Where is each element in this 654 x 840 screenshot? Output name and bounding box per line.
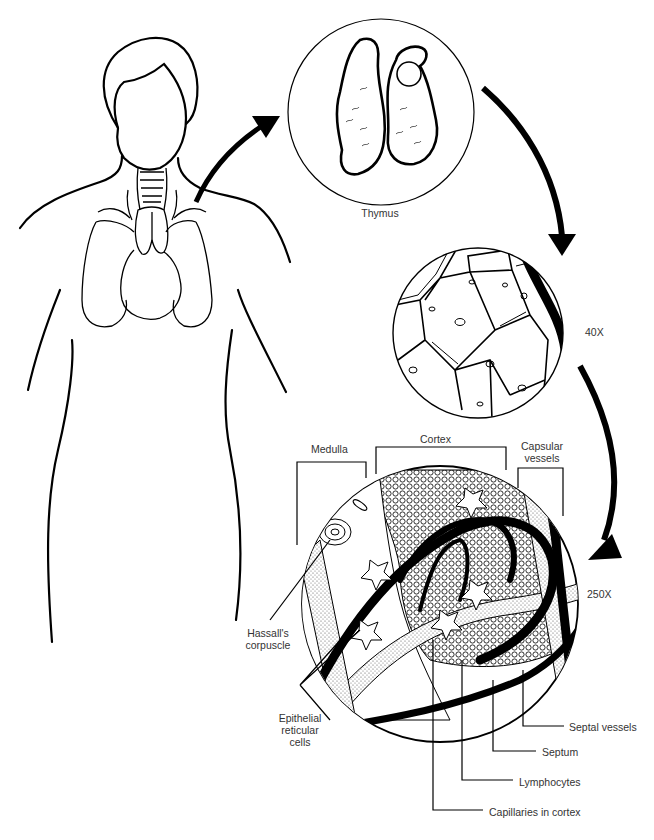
cortex-label: Cortex [420,433,451,445]
trachea-rings [140,172,164,202]
lymphocytes-label: Lymphocytes [519,776,580,788]
thymus-diagram: Thymus 40X 250X Medulla Cortex Capsular … [0,0,654,840]
epithelial-reticular-cells-label: Epithelial reticular cells [270,712,330,748]
thymus-label: Thymus [350,207,410,219]
capsular-vessels-label: Capsular vessels [512,440,572,464]
thymus-organ-view [288,19,474,205]
lung-left [82,222,126,327]
capillaries-label: Capillaries in cortex [489,806,581,818]
arrow-40x-to-250x [580,366,614,540]
magnification-250x-label: 250X [587,588,612,600]
septal-vessels-label: Septal vessels [569,721,637,733]
septum-label: Septum [542,746,578,758]
magnified-250x-view [300,466,600,760]
magnification-40x-label: 40X [585,326,604,338]
magnified-40x-view [393,240,566,425]
arrow-thymus-to-40x [483,88,562,236]
chest-organs [82,168,212,327]
medulla-label: Medulla [311,443,348,455]
heart [121,250,181,319]
hassalls-corpuscle-label: Hassall's corpuscle [238,627,298,651]
human-torso-figure [20,38,290,642]
